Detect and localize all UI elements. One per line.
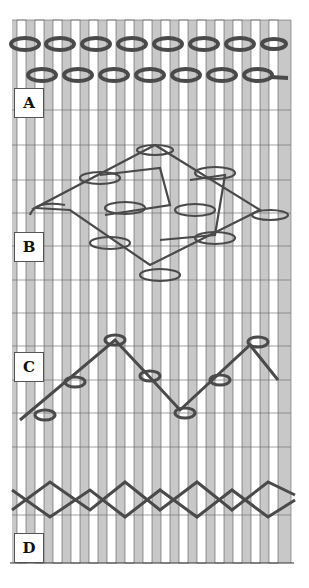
panel-label-c: C xyxy=(14,352,44,382)
warp-threads xyxy=(17,20,278,563)
panel-label-a: A xyxy=(14,88,44,118)
weaving-diagram xyxy=(0,0,309,588)
panel-label-b: B xyxy=(14,232,44,262)
panel-label-d: D xyxy=(14,533,44,563)
